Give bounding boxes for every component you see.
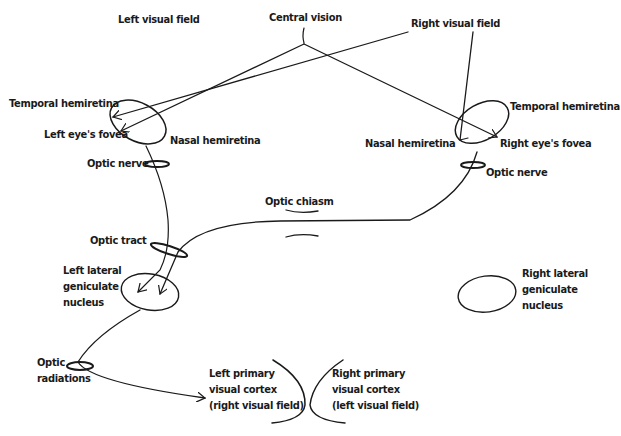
label-central-vision: Central vision — [269, 10, 342, 26]
label-right-lgn-line-3: nucleus — [522, 298, 588, 314]
visual-pathway-diagram: Left visual field Central vision Right v… — [0, 0, 621, 436]
label-left-nasal-hemiretina: Nasal hemiretina — [170, 133, 260, 149]
right-optic-nerve-fiber — [160, 152, 477, 294]
label-left-optic-nerve: Optic nerve — [87, 156, 148, 172]
ray-central-to-left-fovea — [121, 44, 304, 131]
label-left-primary-visual-cortex: Left primary visual cortex (right visual… — [209, 366, 304, 414]
label-left-v1-line-1: Left primary — [209, 366, 304, 382]
label-right-lgn-line-2: geniculate — [522, 282, 588, 298]
label-right-lgn-line-1: Right lateral — [522, 266, 588, 282]
label-left-temporal-hemiretina: Temporal hemiretina — [9, 96, 119, 112]
label-right-nasal-hemiretina: Nasal hemiretina — [365, 136, 455, 152]
label-optic-chiasm: Optic chiasm — [265, 194, 334, 210]
optic-chiasm-mark-top — [286, 210, 318, 212]
label-left-lgn-line-2: geniculate — [63, 279, 121, 295]
label-right-v1-line-2: visual cortex — [332, 382, 419, 398]
label-optic-radiations: Optic radiations — [37, 355, 91, 387]
label-right-primary-visual-cortex: Right primary visual cortex (left visual… — [332, 366, 419, 414]
ray-central-to-right-fovea — [304, 44, 497, 137]
label-left-lgn-line-1: Left lateral — [63, 263, 121, 279]
arrow-right-nasal — [460, 138, 468, 140]
central-vision-pointer — [303, 28, 304, 43]
label-optic-radiations-line-2: radiations — [37, 371, 91, 387]
label-right-temporal-hemiretina: Temporal hemiretina — [510, 99, 620, 115]
label-left-v1-line-2: visual cortex — [209, 382, 304, 398]
label-optic-radiations-line-1: Optic — [37, 355, 91, 371]
right-lgn — [456, 272, 518, 316]
left-lgn — [118, 269, 181, 315]
label-right-optic-nerve: Optic nerve — [486, 165, 547, 181]
diagram-drawing — [0, 0, 621, 436]
optic-chiasm-mark-bottom — [286, 235, 318, 237]
label-right-v1-line-1: Right primary — [332, 366, 419, 382]
optic-tract-ring — [150, 240, 189, 259]
ray-right-field-to-left-temporal — [113, 32, 408, 117]
label-right-visual-field: Right visual field — [411, 16, 500, 32]
label-right-v1-line-3: (left visual field) — [332, 398, 419, 414]
left-optic-nerve-ring — [145, 161, 169, 167]
label-left-eye-fovea: Left eye's fovea — [44, 127, 128, 143]
label-right-lgn: Right lateral geniculate nucleus — [522, 266, 588, 314]
label-left-visual-field: Left visual field — [118, 12, 200, 28]
label-optic-tract: Optic tract — [90, 233, 147, 249]
label-left-lgn: Left lateral geniculate nucleus — [63, 263, 121, 311]
label-left-v1-line-3: (right visual field) — [209, 398, 304, 414]
optic-radiations-fiber — [78, 310, 205, 398]
label-right-eye-fovea: Right eye's fovea — [500, 136, 591, 152]
label-left-lgn-line-3: nucleus — [63, 295, 121, 311]
